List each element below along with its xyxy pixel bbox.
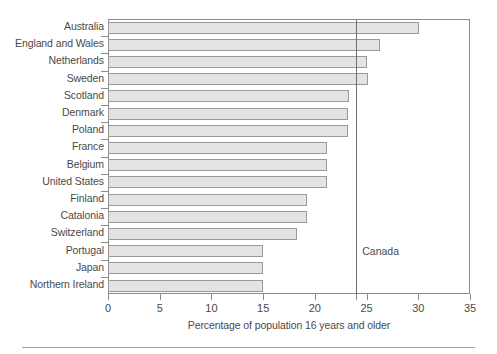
bar-row bbox=[108, 106, 470, 122]
x-axis-tick-mark bbox=[108, 294, 109, 300]
x-axis-tick-mark bbox=[211, 294, 212, 300]
y-axis-tick-label: Australia bbox=[0, 21, 104, 32]
x-axis-tick-label: 0 bbox=[88, 302, 128, 314]
x-axis-tick-label: 25 bbox=[347, 302, 387, 314]
y-axis-tick-label: Japan bbox=[0, 262, 104, 273]
bar-row bbox=[108, 158, 470, 174]
bar bbox=[108, 73, 368, 85]
x-axis-title: Percentage of population 16 years and ol… bbox=[108, 319, 470, 331]
bar bbox=[108, 280, 263, 292]
x-axis-tick-mark bbox=[367, 294, 368, 300]
x-axis-tick-mark bbox=[418, 294, 419, 300]
y-axis-tick-label: Finland bbox=[0, 193, 104, 204]
y-axis-tick-label: England and Wales bbox=[0, 38, 104, 49]
y-axis-tick-label: France bbox=[0, 141, 104, 152]
canada-reference-label: Canada bbox=[362, 245, 399, 257]
bar-row bbox=[108, 20, 470, 36]
canada-reference-tick bbox=[356, 294, 357, 300]
bar bbox=[108, 245, 263, 257]
x-axis-tick-label: 35 bbox=[450, 302, 490, 314]
chart-figure: AustraliaEngland and WalesNetherlandsSwe… bbox=[0, 0, 497, 354]
canada-reference-line bbox=[356, 19, 357, 294]
bar-row bbox=[108, 55, 470, 71]
bar bbox=[108, 262, 263, 274]
bars-layer bbox=[108, 19, 470, 294]
bar bbox=[108, 125, 348, 137]
y-axis-tick-label: Sweden bbox=[0, 73, 104, 84]
x-axis-tick-mark bbox=[315, 294, 316, 300]
bar bbox=[108, 108, 348, 120]
bar-row bbox=[108, 226, 470, 242]
bar-row bbox=[108, 209, 470, 225]
bar bbox=[108, 56, 367, 68]
bar-row bbox=[108, 72, 470, 88]
x-axis-tick-mark bbox=[263, 294, 264, 300]
y-axis-label-column: AustraliaEngland and WalesNetherlandsSwe… bbox=[0, 19, 104, 294]
bar-row bbox=[108, 123, 470, 139]
bar-row bbox=[108, 37, 470, 53]
bar-row bbox=[108, 89, 470, 105]
x-axis-tick-label: 5 bbox=[140, 302, 180, 314]
bar bbox=[108, 211, 307, 223]
bar bbox=[108, 39, 380, 51]
bottom-rule-divider bbox=[22, 347, 475, 348]
x-axis-tick-mark bbox=[470, 294, 471, 300]
bar-row bbox=[108, 244, 470, 260]
y-axis-tick-label: Belgium bbox=[0, 159, 104, 170]
y-axis-tick-label: Denmark bbox=[0, 107, 104, 118]
bar bbox=[108, 22, 419, 34]
bar-row bbox=[108, 278, 470, 294]
y-axis-tick-label: Switzerland bbox=[0, 227, 104, 238]
bar bbox=[108, 194, 307, 206]
bar-row bbox=[108, 175, 470, 191]
x-axis-tick-label: 30 bbox=[398, 302, 438, 314]
bar-row bbox=[108, 141, 470, 157]
bar-row bbox=[108, 192, 470, 208]
bar bbox=[108, 142, 327, 154]
bar bbox=[108, 176, 327, 188]
bar bbox=[108, 90, 349, 102]
y-axis-tick-label: Portugal bbox=[0, 245, 104, 256]
y-axis-tick-label: Poland bbox=[0, 124, 104, 135]
bar-row bbox=[108, 261, 470, 277]
y-axis-tick-label: Northern Ireland bbox=[0, 279, 104, 290]
x-axis-tick-mark bbox=[160, 294, 161, 300]
y-axis-tick-label: Catalonia bbox=[0, 210, 104, 221]
bar bbox=[108, 228, 297, 240]
x-axis-tick-label: 15 bbox=[243, 302, 283, 314]
y-axis-tick-label: United States bbox=[0, 176, 104, 187]
x-axis-tick-label: 20 bbox=[295, 302, 335, 314]
y-axis-tick-label: Netherlands bbox=[0, 55, 104, 66]
y-axis-tick-label: Scotland bbox=[0, 90, 104, 101]
bar bbox=[108, 159, 327, 171]
x-axis-tick-label: 10 bbox=[191, 302, 231, 314]
